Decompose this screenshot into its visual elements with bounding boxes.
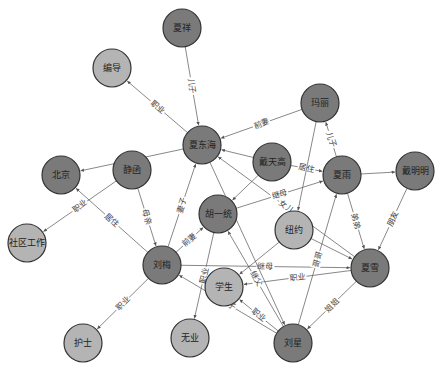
edge-liuxing-xuesheng: 职业: [240, 300, 279, 331]
edge-xiayu-daiming: [361, 172, 395, 174]
edge-mali-huangdonghai: 前妻: [221, 109, 302, 138]
node-mali[interactable]: 玛丽: [301, 84, 339, 122]
node-liumei[interactable]: 刘梅: [143, 246, 181, 284]
edge-liumei-beijing: 居住: [76, 188, 148, 252]
edge-label: 继母: [269, 187, 289, 202]
edge-line: [221, 150, 253, 158]
edge-liumei-hushi: 职业: [97, 278, 148, 329]
node-label: 编导: [103, 62, 121, 73]
node-label: 玛丽: [311, 98, 329, 108]
edge-label-text: 前妻: [252, 116, 270, 131]
edge-xiaxue-liuxing: 姐姐: [307, 281, 356, 329]
edge-label: 儿子: [324, 129, 339, 149]
edge-label-text: 哥哥: [311, 251, 324, 269]
node-label: 夏雨: [333, 170, 351, 180]
edge-liumei-huyitong: 前妻: [176, 227, 203, 252]
edge-jinghan-liumei: 母亲: [138, 188, 156, 246]
node-liuxing[interactable]: 刘星: [274, 324, 312, 362]
node-label: 胡一统: [205, 208, 232, 219]
node-label: 社区工作: [9, 237, 45, 248]
edge-label: 哥哥: [310, 249, 325, 269]
edge-huangdonghai-bianji: 职业: [127, 81, 187, 133]
node-label: 刘星: [284, 337, 302, 348]
edge-label-text: 儿子: [186, 77, 198, 94]
node-xiaxiang[interactable]: 夏祥: [163, 9, 201, 47]
node-daitiangao[interactable]: 戴天高: [253, 143, 291, 181]
edge-daitiangao-huyitong: [232, 175, 258, 200]
edge-xiayu-xiaxue: 弟弟: [347, 193, 364, 249]
nodes-layer: 夏祥编导夏东海玛丽静函北京戴天高夏雨戴明明社区工作胡一统纽约刘梅夏雪学生护士无业…: [8, 9, 434, 362]
edge-label-text: 妻子: [174, 196, 189, 214]
node-xuesheng[interactable]: 学生: [205, 268, 243, 306]
edge-xiaxiang-huangdonghai: 儿子: [185, 47, 198, 126]
edge-label: 职业: [69, 197, 90, 216]
node-hushi[interactable]: 护士: [64, 324, 102, 362]
edge-daitiangao-huangdonghai: [221, 150, 253, 158]
edge-label-text: 职业: [113, 294, 131, 312]
edge-daiming-xiaxue: 朋友: [378, 188, 407, 250]
edge-label: 母亲: [139, 207, 154, 227]
node-label: 戴天高: [259, 156, 286, 167]
edge-label: 职业: [288, 271, 307, 284]
node-shequ[interactable]: 社区工作: [8, 224, 46, 262]
node-label: 夏祥: [173, 22, 191, 33]
edge-label-text: 儿子: [325, 131, 338, 149]
node-label: 无业: [181, 333, 199, 343]
edge-xiayu-mali: 儿子: [324, 122, 339, 157]
node-label: 刘梅: [153, 259, 171, 270]
node-label: 夏雪: [361, 263, 379, 273]
edge-label: 继父: [247, 268, 265, 289]
node-daiming[interactable]: 戴明明: [396, 152, 434, 190]
node-label: 学生: [215, 281, 233, 292]
node-bianji[interactable]: 编导: [93, 49, 131, 87]
edge-label-text: 母亲: [140, 208, 154, 226]
node-xiaxue[interactable]: 夏雪: [351, 249, 389, 287]
edge-label-text: 职业: [289, 271, 306, 283]
node-jinghan[interactable]: 静函: [113, 151, 151, 189]
edge-label-text: 继母: [257, 261, 273, 271]
edge-label-text: 弟弟: [349, 212, 363, 230]
edge-label: 前妻: [251, 116, 271, 132]
node-label: 戴明明: [402, 165, 429, 176]
node-xiayu[interactable]: 夏雨: [323, 156, 361, 194]
edge-label-text: 继母: [270, 187, 288, 201]
node-wuye[interactable]: 无业: [171, 319, 209, 357]
edge-line: [232, 175, 258, 200]
node-niuyue[interactable]: 纽约: [275, 211, 313, 249]
edge-label-text: 姐姐: [322, 296, 340, 314]
node-huangdonghai[interactable]: 夏东海: [183, 126, 221, 164]
edge-label: 儿子: [185, 76, 198, 95]
edge-line: [361, 172, 395, 174]
edge-label: 弟弟: [348, 211, 363, 231]
edge-label: 妻子: [174, 195, 190, 215]
node-label: 北京: [52, 169, 70, 180]
node-label: 纽约: [285, 224, 303, 235]
edge-label: 朋友: [384, 209, 401, 230]
node-label: 静函: [123, 164, 141, 175]
relationship-graph: 儿子职业前妻职业居住母亲妻子前妻职业职业居住儿子朋友弟弟女儿继母继母职业姐姐哥哥…: [0, 0, 437, 371]
node-huyitong[interactable]: 胡一统: [199, 195, 237, 233]
node-label: 夏东海: [189, 139, 216, 150]
node-beijing[interactable]: 北京: [42, 156, 80, 194]
node-label: 护士: [74, 337, 92, 348]
edge-label: 职业: [249, 305, 270, 324]
